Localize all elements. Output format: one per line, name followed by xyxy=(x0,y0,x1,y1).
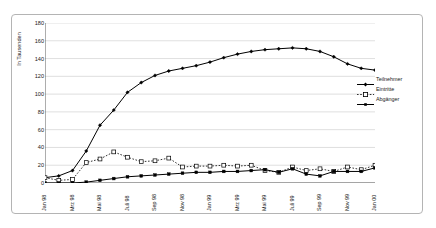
marker-2 xyxy=(277,171,280,174)
x-tick-label: Jan 98 xyxy=(41,185,47,211)
chart-inner: In Tausenden 020406080100120140160180 Ja… xyxy=(12,15,422,213)
page-header-remnant xyxy=(0,0,436,14)
marker-1 xyxy=(126,155,130,159)
legend-item-label: Eintritte xyxy=(376,85,394,94)
marker-1 xyxy=(346,165,350,169)
x-tick-label: Mai 99 xyxy=(261,185,267,211)
y-axis-title: In Tausenden xyxy=(14,9,24,89)
marker-2 xyxy=(332,170,335,173)
marker-0 xyxy=(291,46,294,49)
y-tick-label: 20 xyxy=(24,162,44,168)
series-line-0 xyxy=(45,48,375,178)
legend-item-label: Teilnehmer xyxy=(376,75,402,84)
marker-0 xyxy=(222,56,225,59)
x-tick-label: Sep 98 xyxy=(151,185,157,211)
marker-2 xyxy=(222,170,225,173)
marker-2 xyxy=(126,175,129,178)
y-tick-label: 80 xyxy=(24,109,44,115)
y-tick-label: 40 xyxy=(24,144,44,150)
marker-2 xyxy=(264,168,267,171)
y-tick-label: 180 xyxy=(24,20,44,26)
marker-1 xyxy=(98,157,102,161)
marker-2 xyxy=(154,174,157,177)
x-tick-label: Nov 98 xyxy=(179,185,185,211)
marker-1 xyxy=(236,164,240,168)
chart-figure: In Tausenden 020406080100120140160180 Ja… xyxy=(11,14,423,214)
x-tick-label: Sep 99 xyxy=(316,185,322,211)
marker-1 xyxy=(153,159,157,163)
marker-2 xyxy=(99,179,102,182)
marker-2 xyxy=(57,182,60,183)
marker-0 xyxy=(318,50,321,53)
marker-2 xyxy=(181,172,184,175)
marker-2 xyxy=(236,170,239,173)
marker-2 xyxy=(195,171,198,174)
marker-1 xyxy=(71,178,75,182)
x-tick-label: Mai 98 xyxy=(96,185,102,211)
marker-0 xyxy=(236,52,239,55)
marker-2 xyxy=(71,182,74,183)
marker-0 xyxy=(153,74,156,77)
y-tick-label: 140 xyxy=(24,56,44,62)
x-tick-label: Juli 98 xyxy=(124,185,130,211)
marker-0 xyxy=(277,47,280,50)
x-tick-label: Nov 99 xyxy=(344,185,350,211)
marker-2 xyxy=(319,174,322,177)
chart-legend: TeilnehmerEintritteAbgänger xyxy=(356,75,422,105)
marker-0 xyxy=(305,47,308,50)
marker-0 xyxy=(208,60,211,63)
marker-1 xyxy=(318,167,322,171)
legend-item-teilnehmer[interactable]: Teilnehmer xyxy=(356,75,422,84)
marker-1 xyxy=(84,161,88,165)
marker-0 xyxy=(250,50,253,53)
marker-2 xyxy=(112,177,115,180)
marker-2 xyxy=(291,167,294,170)
x-tick-label: Mrz 99 xyxy=(234,185,240,211)
marker-2 xyxy=(140,174,143,177)
marker-1 xyxy=(208,164,212,168)
marker-2 xyxy=(360,170,363,173)
legend-marker-icon xyxy=(356,85,375,94)
marker-2 xyxy=(209,171,212,174)
marker-1 xyxy=(112,150,116,154)
marker-1 xyxy=(222,163,226,167)
y-tick-label: 120 xyxy=(24,73,44,79)
legend-item-abgänger[interactable]: Abgänger xyxy=(356,95,422,104)
marker-1 xyxy=(45,176,47,180)
y-tick-label: 60 xyxy=(24,127,44,133)
marker-0 xyxy=(373,68,375,71)
marker-2 xyxy=(346,170,349,173)
marker-2 xyxy=(85,181,88,183)
marker-1 xyxy=(139,160,143,164)
x-tick-label: Jan 00 xyxy=(371,185,377,211)
marker-0 xyxy=(195,64,198,67)
marker-2 xyxy=(45,182,46,183)
y-axis-tick-labels: 020406080100120140160180 xyxy=(24,23,44,183)
marker-2 xyxy=(305,173,308,176)
y-tick-label: 100 xyxy=(24,91,44,97)
marker-0 xyxy=(360,67,363,70)
marker-0 xyxy=(181,67,184,70)
marker-2 xyxy=(167,173,170,176)
legend-marker-icon xyxy=(356,75,375,84)
legend-item-label: Abgänger xyxy=(376,95,399,104)
marker-1 xyxy=(181,165,185,169)
x-tick-label: Juli 99 xyxy=(289,185,295,211)
marker-1 xyxy=(249,163,253,167)
y-tick-label: 160 xyxy=(24,38,44,44)
marker-0 xyxy=(263,48,266,51)
marker-0 xyxy=(332,55,335,58)
marker-0 xyxy=(57,174,60,177)
legend-item-eintritte[interactable]: Eintritte xyxy=(356,85,422,94)
marker-1 xyxy=(194,164,198,168)
legend-marker-icon xyxy=(356,95,375,104)
marker-0 xyxy=(346,62,349,65)
x-tick-label: Mrz 98 xyxy=(69,185,75,211)
marker-2 xyxy=(250,169,253,172)
marker-1 xyxy=(304,169,308,173)
marker-2 xyxy=(374,166,375,169)
marker-1 xyxy=(167,156,171,160)
plot-svg xyxy=(45,23,375,183)
marker-0 xyxy=(167,69,170,72)
plot-area xyxy=(45,23,375,183)
